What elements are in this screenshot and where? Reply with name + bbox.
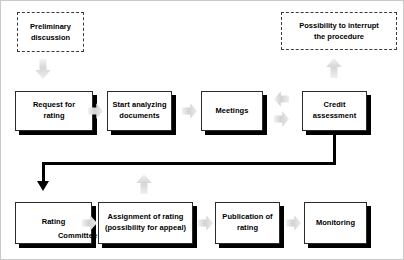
node-label-line: assessment xyxy=(313,111,356,120)
node-rating-committee[interactable]: Rating Committee xyxy=(15,202,92,244)
node-preliminary-discussion[interactable]: Preliminary discussion xyxy=(17,12,84,52)
node-monitoring[interactable]: Monitoring xyxy=(304,202,367,244)
node-label: Meetings xyxy=(205,106,259,117)
node-label-line: Assignment of rating xyxy=(107,212,183,221)
node-label: Monitoring xyxy=(308,218,363,229)
flowchart-canvas: Preliminary discussion Possibility to in… xyxy=(0,0,404,260)
node-label-line: documents xyxy=(119,111,159,120)
node-label-line: Preliminary xyxy=(30,22,71,31)
node-label-line: rating xyxy=(237,223,258,232)
node-label-line: (possibility for appeal) xyxy=(105,223,186,232)
node-label-line: Possibility to interrupt xyxy=(299,21,379,30)
node-label-line: Start analyzing xyxy=(112,100,166,109)
node-publication-of-rating[interactable]: Publication of rating xyxy=(215,202,280,244)
node-label: Assignment of rating (possibility for ap… xyxy=(102,212,189,234)
node-label: Request for rating xyxy=(19,100,89,122)
node-label-line: Request for xyxy=(33,100,75,109)
node-label: Start analyzing documents xyxy=(111,100,168,122)
node-label-line: Meetings xyxy=(216,106,249,115)
arrow-down-icon xyxy=(35,59,51,79)
node-label: Credit assessment xyxy=(306,100,363,122)
arrow-right-icon xyxy=(274,111,289,127)
node-possibility-to-interrupt[interactable]: Possibility to interrupt the procedure xyxy=(281,12,397,50)
arrow-right-icon xyxy=(198,215,213,231)
node-start-analyzing-documents[interactable]: Start analyzing documents xyxy=(107,91,172,131)
node-label-line: Monitoring xyxy=(316,218,355,227)
arrow-up-icon xyxy=(326,58,342,78)
elbow-connector-horizontal xyxy=(42,162,336,165)
elbow-connector-vertical-right xyxy=(333,135,336,165)
node-label-line: discussion xyxy=(31,33,70,42)
node-label-line: the procedure xyxy=(314,32,364,41)
arrow-right-icon xyxy=(182,103,197,119)
node-label: Publication of rating xyxy=(219,212,276,234)
node-assignment-of-rating[interactable]: Assignment of rating (possibility for ap… xyxy=(98,202,193,244)
elbow-connector-vertical-left xyxy=(42,162,45,183)
node-label-line: Credit xyxy=(324,100,346,109)
arrow-left-icon xyxy=(274,91,289,107)
arrow-up-icon xyxy=(136,174,152,194)
node-meetings[interactable]: Meetings xyxy=(201,91,263,131)
node-label-line: rating xyxy=(43,111,64,120)
node-request-for-rating[interactable]: Request for rating xyxy=(15,91,93,131)
node-credit-assessment[interactable]: Credit assessment xyxy=(302,91,367,131)
elbow-connector-arrowhead-icon xyxy=(37,181,49,191)
node-label-line: Publication of xyxy=(222,212,272,221)
arrow-right-icon xyxy=(286,215,301,231)
